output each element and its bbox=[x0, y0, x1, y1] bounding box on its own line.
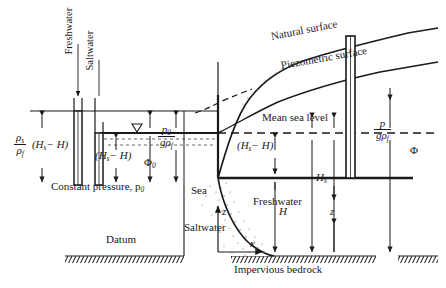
p0-over-g-rho-f-label: p0 gρf bbox=[158, 124, 175, 150]
datum-label: Datum bbox=[106, 234, 136, 245]
saltwater-wedge bbox=[197, 178, 274, 256]
rho-s-numerator: ρs bbox=[14, 132, 26, 145]
density-ratio-head-label: ρs ρf (Hs− H) bbox=[14, 132, 68, 158]
p0-fraction: p0 gρf bbox=[158, 124, 175, 150]
mean-sea-level-label: Mean sea level bbox=[262, 112, 328, 123]
saltwater-region-label: Saltwater bbox=[184, 222, 226, 233]
g-rho-f-denominator-2: gρf bbox=[374, 130, 391, 142]
phi-label: Φ bbox=[410, 145, 418, 156]
p-over-g-rho-f-label: p gρf bbox=[374, 118, 391, 143]
density-ratio-fraction: ρs ρf bbox=[14, 132, 26, 158]
hs-minus-h-left-label: (Hs− H) bbox=[95, 150, 131, 162]
freshwater-region-label: Freshwater bbox=[253, 196, 302, 207]
phi-zero-label: Φ0 bbox=[144, 157, 156, 169]
rho-f-denominator: ρf bbox=[14, 145, 26, 157]
g-rho-f-denominator: gρf bbox=[158, 137, 175, 149]
freshwater-tube-callout: Freshwater bbox=[64, 8, 75, 55]
x-axis-label: x bbox=[250, 238, 255, 249]
z-axis-label: z bbox=[222, 206, 226, 217]
impervious-bedrock-label: Impervious bedrock bbox=[234, 264, 322, 275]
hydrogeology-cross-section-diagram: Freshwater Saltwater ρs ρf (Hs− H) (Hs− … bbox=[0, 0, 446, 288]
sea-label: Sea bbox=[191, 185, 207, 196]
constant-pressure-label: Constant pressure, ps0 bbox=[51, 181, 144, 193]
z-right-label: z bbox=[330, 206, 334, 217]
freshwater-standpipe bbox=[74, 98, 82, 185]
Hs-label: Hs bbox=[316, 172, 327, 184]
p-fraction: p gρf bbox=[374, 118, 391, 143]
saltwater-tube-callout: Saltwater bbox=[85, 31, 96, 71]
H-label: H bbox=[279, 206, 287, 217]
hs-minus-h-group: (Hs− H) bbox=[32, 138, 68, 150]
p0-numerator: p0 bbox=[158, 124, 175, 137]
hs-minus-h-right-label: (Hs− H) bbox=[237, 140, 273, 152]
ground-hatching bbox=[65, 256, 438, 263]
